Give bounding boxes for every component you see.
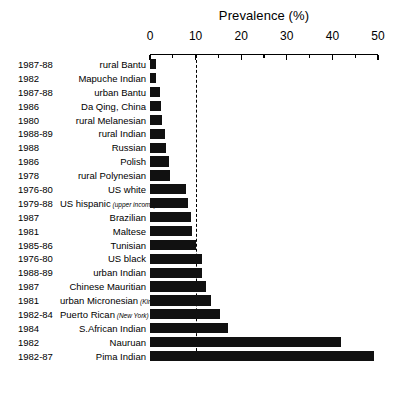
bar xyxy=(150,59,156,69)
row-group-label: rural Polynesian xyxy=(60,170,146,181)
row-group-name: rural Indian xyxy=(98,128,146,139)
bar xyxy=(150,351,374,361)
row-group-name: Maltese xyxy=(113,226,146,237)
row-group-label: US hispanic (upper income) xyxy=(60,198,146,210)
bar xyxy=(150,156,169,166)
row-group-name: urban Indian xyxy=(93,267,146,278)
chart-row: 1988Russian xyxy=(0,141,395,155)
row-year-label: 1982-87 xyxy=(18,351,64,362)
bar xyxy=(150,226,192,236)
chart-row: 1985-86Tunisian xyxy=(0,239,395,253)
bar xyxy=(150,240,196,250)
chart-row: 1982Nauruan xyxy=(0,336,395,350)
chart-rows: 1987-88rural Bantu1982Mapuche Indian1987… xyxy=(0,58,395,364)
chart-row: 1987Chinese Mauritian xyxy=(0,280,395,294)
chart-row: 1984S.African Indian xyxy=(0,322,395,336)
bar xyxy=(150,295,211,305)
row-group-label: Russian xyxy=(60,142,146,153)
row-group-name: S.African Indian xyxy=(79,323,146,334)
row-year-label: 1981 xyxy=(18,295,64,306)
row-group-label: Nauruan xyxy=(60,337,146,348)
row-group-label: US white xyxy=(60,184,146,195)
chart-row: 1981urban Micronesian (Kiribati) xyxy=(0,294,395,308)
row-group-label: urban Micronesian (Kiribati) xyxy=(60,295,146,307)
bar xyxy=(150,212,191,222)
chart-title: Prevalence (%) xyxy=(150,8,378,23)
row-group-label: US black xyxy=(60,253,146,264)
row-year-label: 1981 xyxy=(18,226,64,237)
row-group-name: rural Bantu xyxy=(100,59,146,70)
row-year-label: 1982 xyxy=(18,337,64,348)
row-group-name: Da Qing, China xyxy=(81,101,146,112)
x-tick-label-10: 10 xyxy=(189,29,202,43)
row-year-label: 1985-86 xyxy=(18,240,64,251)
row-group-name: US white xyxy=(108,184,146,195)
row-group-label: S.African Indian xyxy=(60,323,146,334)
bar xyxy=(150,323,228,333)
chart-row: 1986Da Qing, China xyxy=(0,100,395,114)
chart-row: 1978rural Polynesian xyxy=(0,169,395,183)
row-year-label: 1986 xyxy=(18,156,64,167)
row-group-name: US black xyxy=(108,253,146,264)
bar xyxy=(150,198,188,208)
row-group-label: Chinese Mauritian xyxy=(60,281,146,292)
row-group-name: US hispanic xyxy=(60,198,111,209)
bar xyxy=(150,337,341,347)
x-tick-label-30: 30 xyxy=(280,29,293,43)
bar xyxy=(150,115,162,125)
chart-row: 1987-88urban Bantu xyxy=(0,86,395,100)
bar xyxy=(150,87,160,97)
row-group-name: Tunisian xyxy=(110,240,146,251)
row-group-name: rural Polynesian xyxy=(78,170,146,181)
row-group-name: Mapuche Indian xyxy=(78,73,146,84)
row-group-name: Chinese Mauritian xyxy=(69,281,146,292)
row-group-name: Polish xyxy=(120,156,146,167)
row-group-label: Mapuche Indian xyxy=(60,73,146,84)
row-group-label: urban Bantu xyxy=(60,87,146,98)
row-group-label: rural Melanesian xyxy=(60,115,146,126)
row-group-name: Brazilian xyxy=(110,212,146,223)
row-group-label: rural Indian xyxy=(60,128,146,139)
bar xyxy=(150,184,186,194)
x-tick-label-40: 40 xyxy=(326,29,339,43)
bar xyxy=(150,143,166,153)
row-group-label: Polish xyxy=(60,156,146,167)
row-group-label: Puerto Rican (New York) xyxy=(60,309,146,321)
row-group-label: Tunisian xyxy=(60,240,146,251)
row-year-label: 1976-80 xyxy=(18,184,64,195)
row-group-label: Da Qing, China xyxy=(60,101,146,112)
chart-row: 1986Polish xyxy=(0,155,395,169)
row-year-label: 1988-89 xyxy=(18,267,64,278)
chart-row: 1987Brazilian xyxy=(0,211,395,225)
row-year-label: 1987 xyxy=(18,212,64,223)
x-axis-line xyxy=(150,54,378,55)
x-tick-label-50: 50 xyxy=(371,29,384,43)
bar xyxy=(150,101,161,111)
chart-row: 1982-84Puerto Rican (New York) xyxy=(0,308,395,322)
row-group-name: Puerto Rican xyxy=(60,309,115,320)
row-year-label: 1979-88 xyxy=(18,198,64,209)
row-year-label: 1982-84 xyxy=(18,309,64,320)
chart-row: 1980rural Melanesian xyxy=(0,114,395,128)
chart-row: 1988-89urban Indian xyxy=(0,266,395,280)
chart-row: 1979-88US hispanic (upper income) xyxy=(0,197,395,211)
row-year-label: 1978 xyxy=(18,170,64,181)
row-group-name: urban Bantu xyxy=(94,87,146,98)
chart-row: 1988-89rural Indian xyxy=(0,127,395,141)
row-group-name: urban Micronesian xyxy=(60,295,138,306)
row-year-label: 1980 xyxy=(18,115,64,126)
row-group-note: (New York) xyxy=(115,312,149,319)
row-group-name: Russian xyxy=(112,142,146,153)
x-tick-label-20: 20 xyxy=(235,29,248,43)
bar xyxy=(150,268,202,278)
row-year-label: 1984 xyxy=(18,323,64,334)
prevalence-bar-chart: Prevalence (%) 01020304050 1987-88rural … xyxy=(0,0,395,412)
row-year-label: 1988 xyxy=(18,142,64,153)
chart-row: 1987-88rural Bantu xyxy=(0,58,395,72)
chart-row: 1976-80US black xyxy=(0,252,395,266)
bar xyxy=(150,281,206,291)
bar xyxy=(150,170,170,180)
row-group-name: rural Melanesian xyxy=(76,115,146,126)
row-group-name: Pima Indian xyxy=(96,351,146,362)
bar xyxy=(150,254,202,264)
